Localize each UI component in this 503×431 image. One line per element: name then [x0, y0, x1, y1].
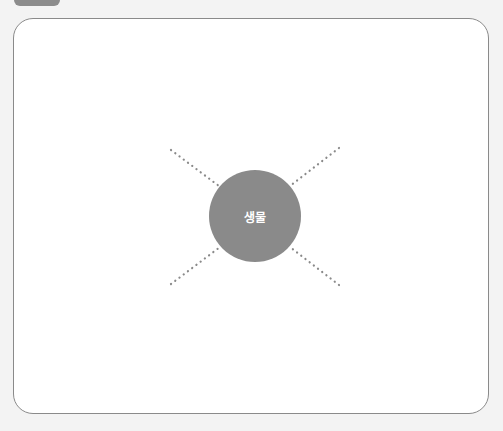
center-node-label: 생물 [209, 170, 301, 262]
